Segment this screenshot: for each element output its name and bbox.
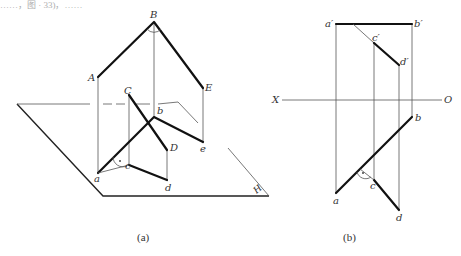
label-c-prime: c′ [372, 33, 380, 43]
label-c-top-view: c [370, 181, 376, 191]
label-b-lower: b [157, 106, 163, 116]
label-d-prime: d′ [400, 57, 409, 67]
axis-label-O: O [444, 95, 452, 105]
label-C: C [124, 86, 132, 96]
label-d-lower: d [165, 183, 171, 193]
label-b-top-view: b [415, 113, 421, 123]
descriptive-geometry-figure: ……，图 · 33)，…… B A E C b D e a c d H (a) … [0, 0, 461, 256]
front-view-c-extension [353, 24, 374, 43]
right-angle-dot-a [119, 160, 121, 162]
label-c-lower: c [125, 161, 131, 171]
label-D: D [170, 143, 178, 153]
figure-a-lines [17, 22, 269, 196]
angle-arc-top-view [357, 172, 371, 179]
label-a-top-view: a [333, 196, 339, 206]
caption-a: (a) [137, 232, 149, 243]
label-B: B [150, 10, 157, 20]
caption-b: (b) [343, 232, 356, 243]
right-angle-dot-b [362, 172, 364, 174]
label-e-lower: e [200, 144, 206, 154]
axis-label-X: X [272, 95, 279, 105]
front-view-cd [374, 43, 399, 65]
label-a-lower: a [94, 174, 100, 184]
header-text-fragment: ……，图 · 33)，…… [0, 1, 83, 10]
label-b-prime: b′ [414, 19, 423, 29]
label-E: E [205, 83, 212, 93]
projection-cd [129, 165, 167, 180]
diagram-lines [0, 0, 461, 256]
h-plane-front-edges [17, 104, 269, 196]
h-plane-back-edge-right [158, 102, 198, 123]
label-d-top-view: d [396, 213, 402, 223]
top-view-cd [374, 180, 399, 210]
label-a-prime: a′ [325, 19, 333, 29]
label-A: A [88, 73, 95, 83]
